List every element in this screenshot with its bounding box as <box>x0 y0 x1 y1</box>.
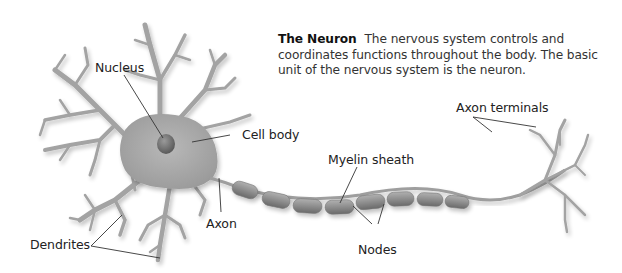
caption-title: The Neuron <box>278 32 357 46</box>
caption: The Neuron The nervous system controls a… <box>278 32 608 79</box>
label-cell-body: Cell body <box>242 127 299 142</box>
label-nodes: Nodes <box>358 242 397 257</box>
label-dendrites: Dendrites <box>30 237 90 252</box>
nucleus <box>157 134 175 154</box>
label-nucleus: Nucleus <box>95 60 144 75</box>
axon-terminals <box>520 120 588 232</box>
label-axon: Axon <box>206 216 237 231</box>
label-axon-terminals: Axon terminals <box>456 100 548 115</box>
label-myelin-sheath: Myelin sheath <box>328 152 414 167</box>
